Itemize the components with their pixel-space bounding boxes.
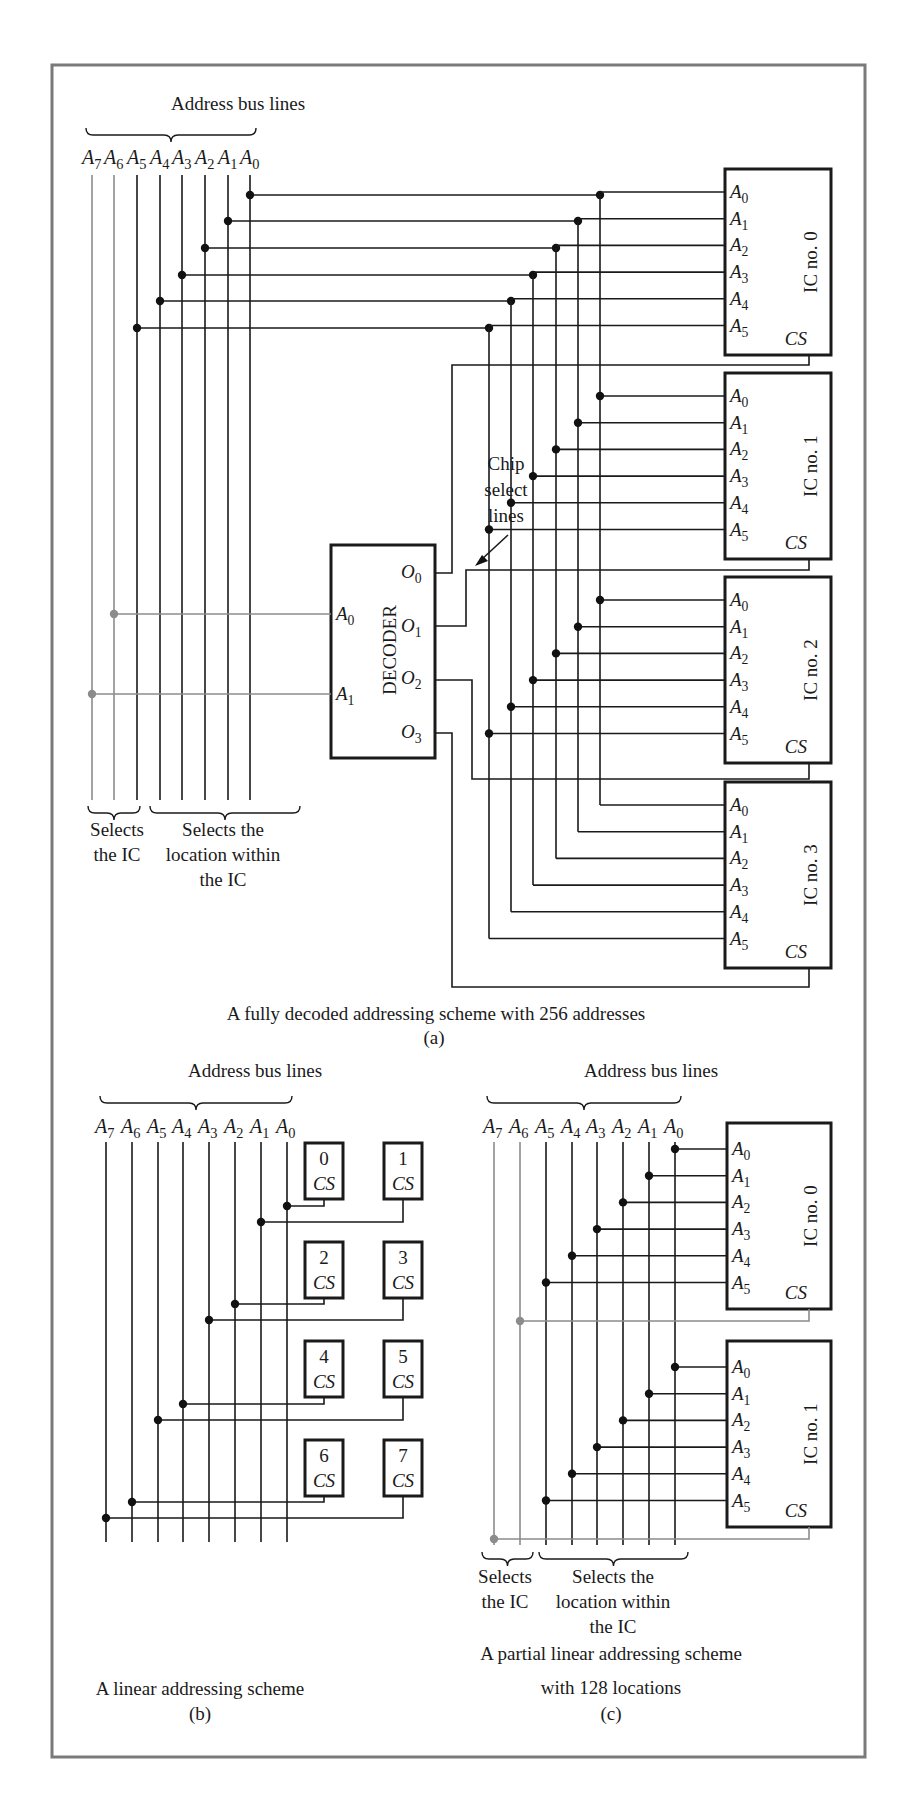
bus-line-label-a5: A5: [125, 146, 146, 172]
memory-chip-6: 6CS: [305, 1440, 343, 1496]
chip-number: 1: [398, 1148, 408, 1169]
bus-line-label-a6: A6: [102, 146, 123, 172]
part-c-partial-linear: Address bus linesA7A6A5A4A3A2A1A0A0A1A2A…: [478, 1060, 831, 1725]
junction-dot: [542, 1496, 550, 1504]
part-c-caption-line1: A partial linear addressing scheme: [480, 1643, 742, 1664]
junction-dot: [201, 244, 209, 252]
junction-dot: [246, 191, 254, 199]
chip-number: 0: [319, 1148, 329, 1169]
selects-location-note-line1: Selects the: [182, 819, 264, 840]
ic-chip-2: A0A1A2A3A4A5CSIC no. 2: [725, 577, 831, 763]
chip-select-pin-label: CS: [785, 736, 808, 757]
chip-number: 2: [319, 1247, 329, 1268]
ic-chip-1: A0A1A2A3A4A5CSIC no. 1: [727, 1341, 831, 1527]
bus-label: Address bus lines: [188, 1060, 322, 1081]
chip-select-note-line3: lines: [488, 505, 524, 526]
selects-location-note-line2: location within: [166, 844, 281, 865]
chip-select-pin-label: CS: [785, 1282, 808, 1303]
curly-brace: [86, 128, 256, 142]
junction-dot: [231, 1300, 239, 1308]
bus-line-label-a5: A5: [533, 1115, 554, 1141]
ic-name-label: IC no. 0: [800, 231, 821, 293]
junction-dot: [205, 1316, 213, 1324]
junction-dot: [671, 1145, 679, 1153]
junction-dot: [128, 1498, 136, 1506]
chip-select-pin-label: CS: [785, 1500, 808, 1521]
junction-dot: [529, 472, 537, 480]
bus-label: Address bus lines: [584, 1060, 718, 1081]
part-a-fully-decoded: Address bus linesA7A6A5A4A3A2A1A0A0A1A2A…: [80, 93, 831, 1049]
junction-dot: [102, 1514, 110, 1522]
decoder-title: DECODER: [379, 605, 400, 695]
chip-select-label: CS: [313, 1173, 336, 1194]
part-c-caption-line2: with 128 locations: [541, 1677, 681, 1698]
ic-chip-0: A0A1A2A3A4A5CSIC no. 0: [725, 169, 831, 355]
selects-ic-note-line2: the IC: [482, 1591, 529, 1612]
bus-line-label-a0: A0: [274, 1115, 295, 1141]
ic-chip-3: A0A1A2A3A4A5CSIC no. 3: [725, 782, 831, 968]
bus-line-label-a4: A4: [559, 1115, 580, 1141]
ic-name-label: IC no. 1: [800, 1403, 821, 1465]
curly-brace: [150, 806, 300, 820]
chip-select-pin-label: CS: [785, 532, 808, 553]
junction-dot: [154, 1416, 162, 1424]
junction-dot: [645, 1390, 653, 1398]
curly-brace: [88, 806, 140, 820]
ic-chip-1: A0A1A2A3A4A5CSIC no. 1: [725, 373, 831, 559]
bus-line-label-a1: A1: [216, 146, 237, 172]
chip-select-pin-label: CS: [785, 328, 808, 349]
chip-select-pin-label: CS: [785, 941, 808, 962]
bus-line-label-a6: A6: [119, 1115, 140, 1141]
junction-dot: [485, 729, 493, 737]
junction-dot: [490, 1535, 498, 1543]
bus-line-label-a1: A1: [636, 1115, 657, 1141]
chip-number: 7: [398, 1445, 408, 1466]
ic-name-label: IC no. 0: [800, 1185, 821, 1247]
part-b-label: (b): [189, 1703, 211, 1725]
part-b-linear: Address bus linesA7A6A5A4A3A2A1A00CS1CS2…: [93, 1060, 422, 1725]
junction-dot: [574, 419, 582, 427]
selects-ic-note-line1: Selects: [90, 819, 144, 840]
bus-line-label-a7: A7: [80, 146, 101, 172]
chip-number: 3: [398, 1247, 408, 1268]
junction-dot: [224, 217, 232, 225]
bus-line-label-a3: A3: [584, 1115, 605, 1141]
selects-location-note-line3: the IC: [200, 869, 247, 890]
memory-chip-7: 7CS: [384, 1440, 422, 1496]
curly-brace: [100, 1096, 292, 1110]
junction-dot: [619, 1416, 627, 1424]
decoder-block: DECODERA0A1O0O1O2O3: [331, 545, 435, 758]
ic-name-label: IC no. 1: [800, 435, 821, 497]
bus-line-label-a5: A5: [145, 1115, 166, 1141]
junction-dot: [133, 324, 141, 332]
junction-dot: [671, 1363, 679, 1371]
chip-select-note-line1: Chip: [488, 453, 525, 474]
junction-dot: [179, 1400, 187, 1408]
chip-number: 5: [398, 1346, 408, 1367]
chip-number: 4: [319, 1346, 329, 1367]
bus-line-label-a7: A7: [481, 1115, 502, 1141]
curly-brace: [482, 1552, 533, 1566]
junction-dot: [178, 271, 186, 279]
junction-dot: [507, 703, 515, 711]
bus-line-label-a4: A4: [170, 1115, 191, 1141]
ic-name-label: IC no. 3: [800, 844, 821, 906]
junction-dot: [283, 1202, 291, 1210]
selects-location-note-line3: the IC: [590, 1616, 637, 1637]
chip-select-note-line2: select: [484, 479, 528, 500]
junction-dot: [568, 1252, 576, 1260]
junction-dot: [156, 297, 164, 305]
bus-line-label-a2: A2: [222, 1115, 243, 1141]
bus-line-label-a3: A3: [170, 146, 191, 172]
junction-dot: [110, 610, 118, 618]
part-a-label: (a): [423, 1027, 444, 1049]
bus-line-label-a2: A2: [610, 1115, 631, 1141]
bus-line-label-a4: A4: [148, 146, 169, 172]
junction-dot: [552, 445, 560, 453]
bus-line-label-a0: A0: [238, 146, 259, 172]
junction-dot: [257, 1218, 265, 1226]
junction-dot: [542, 1278, 550, 1286]
ic-chip-0: A0A1A2A3A4A5CSIC no. 0: [727, 1123, 831, 1309]
chip-number: 6: [319, 1445, 329, 1466]
memory-chip-5: 5CS: [384, 1341, 422, 1397]
